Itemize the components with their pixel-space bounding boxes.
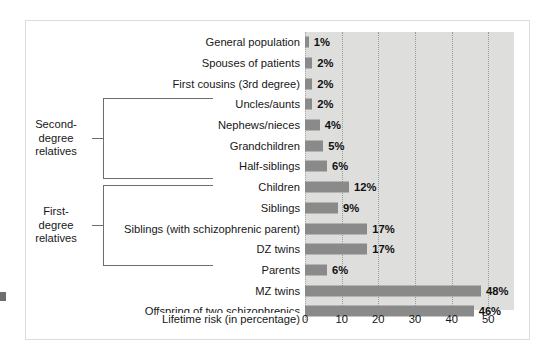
category-label: DZ twins (252, 243, 300, 256)
bracket-stem-second-degree (92, 138, 104, 139)
tick-label-50: 50 (482, 313, 494, 325)
category-label: Siblings (257, 201, 300, 214)
bar-rows: General population1%Spouses of patients2… (0, 32, 554, 322)
category-label: MZ twins (251, 284, 300, 297)
bar (305, 58, 312, 69)
bar-value-label: 9% (338, 202, 359, 214)
category-label: Half-siblings (235, 160, 300, 173)
schizophrenia-lifetime-risk-bar-chart: General population1%Spouses of patients2… (0, 0, 554, 361)
bracket-stem-first-degree (92, 225, 104, 226)
bar (305, 244, 367, 255)
group-label-second-degree-line2: degree (20, 132, 92, 146)
bar-row: Uncles/aunts2% (0, 94, 554, 115)
bar-row: First cousins (3rd degree)2% (0, 73, 554, 94)
bar (305, 202, 338, 213)
bar-value-label: 48% (481, 285, 508, 297)
group-label-second-degree: Second- degree relatives (20, 118, 92, 159)
bar-row: General population1% (0, 32, 554, 53)
tick-label-10: 10 (335, 313, 347, 325)
category-label: Children (254, 181, 300, 194)
bar-value-label: 4% (320, 119, 341, 131)
category-label: Grandchildren (226, 139, 300, 152)
bar (305, 223, 367, 234)
group-label-first-degree-line2: degree (20, 219, 92, 233)
bar-row: MZ twins48% (0, 280, 554, 301)
bar (305, 99, 312, 110)
bar-value-label: 5% (323, 140, 344, 152)
bar-value-label: 17% (367, 243, 394, 255)
bar (305, 161, 327, 172)
bar (305, 140, 323, 151)
category-label: Nephews/nieces (214, 119, 300, 132)
bar-value-label: 12% (349, 181, 376, 193)
bar-row: Children12% (0, 177, 554, 198)
group-label-first-degree-line3: relatives (20, 232, 92, 246)
bar (305, 182, 349, 193)
bar-value-label: 2% (312, 78, 333, 90)
bar-row: Half-siblings6% (0, 156, 554, 177)
tick-label-0: 0 (302, 313, 308, 325)
bracket-first-degree (103, 185, 213, 266)
x-axis: Lifetime risk (in percentage) 0102030405… (0, 310, 554, 332)
bar-value-label: 17% (367, 223, 394, 235)
bar-row: Spouses of patients2% (0, 53, 554, 74)
category-label: First cousins (3rd degree) (169, 77, 300, 90)
bar-value-label: 2% (312, 57, 333, 69)
bar-value-label: 2% (312, 98, 333, 110)
bracket-second-degree (103, 98, 213, 179)
group-label-first-degree: First- degree relatives (20, 205, 92, 246)
figure-container: General population1%Spouses of patients2… (0, 0, 554, 361)
tick-label-20: 20 (372, 313, 384, 325)
group-label-first-degree-line1: First- (20, 205, 92, 219)
bar-value-label: 6% (327, 264, 348, 276)
bar (305, 285, 481, 296)
category-label: Spouses of patients (198, 57, 300, 70)
bar-row: Parents6% (0, 260, 554, 281)
bar (305, 264, 327, 275)
group-label-second-degree-line3: relatives (20, 145, 92, 159)
category-label: General population (201, 36, 300, 49)
category-label: Parents (257, 263, 300, 276)
bar-value-label: 6% (327, 160, 348, 172)
category-label: Uncles/aunts (231, 98, 300, 111)
tick-label-40: 40 (445, 313, 457, 325)
x-axis-title: Lifetime risk (in percentage) (158, 313, 300, 325)
bar-value-label: 1% (309, 36, 330, 48)
tick-label-30: 30 (409, 313, 421, 325)
bar (305, 78, 312, 89)
bar (305, 120, 320, 131)
group-label-second-degree-line1: Second- (20, 118, 92, 132)
